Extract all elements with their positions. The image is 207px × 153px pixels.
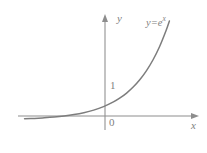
equation-exponent: x [162,14,165,23]
y-axis-label: y [117,13,122,24]
curve-equation-label: y=ex [146,15,166,28]
figure-canvas [0,0,207,153]
exponential-function-figure: y x 1 0 y=ex [0,0,207,153]
y-axis-arrowhead [102,14,108,22]
exponential-curve [25,21,170,119]
x-axis-label: x [191,120,196,131]
y-intercept-tick-label: 1 [110,80,116,91]
origin-label: 0 [109,117,115,128]
equation-base: y=e [146,17,162,28]
